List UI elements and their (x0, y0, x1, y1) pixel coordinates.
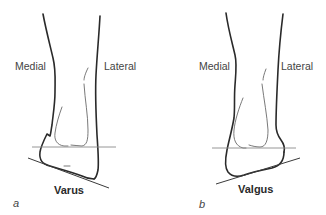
panel-b-ground-line (216, 158, 300, 184)
panel-a-inner-line-right (71, 68, 88, 146)
panel-b-lateral-outline (276, 14, 284, 152)
panel-b-medial-label: Medial (199, 61, 230, 72)
panel-b-valgus-drawing (212, 13, 300, 184)
panel-a-letter: a (13, 198, 19, 209)
varus-valgus-figure: Medial Lateral Varus a Medial Lateral Va… (0, 0, 326, 215)
panel-b-caption: Valgus (238, 184, 273, 195)
panel-b-medial-outline (226, 13, 284, 176)
panel-a-inner-line-left (55, 107, 68, 146)
panel-a-caption: Varus (54, 185, 84, 196)
foot-drawings (0, 0, 326, 215)
panel-a-varus-drawing (28, 14, 116, 188)
panel-b-inner-line-right (249, 69, 268, 147)
panel-a-medial-outline (40, 14, 94, 179)
panel-b-inner-line-left (234, 98, 246, 148)
panel-b-letter: b (199, 199, 205, 210)
panel-a-lateral-label: Lateral (104, 61, 136, 72)
panel-a-medial-label: Medial (15, 61, 46, 72)
panel-a-lateral-outline (94, 16, 100, 179)
panel-b-lateral-label: Lateral (281, 61, 313, 72)
